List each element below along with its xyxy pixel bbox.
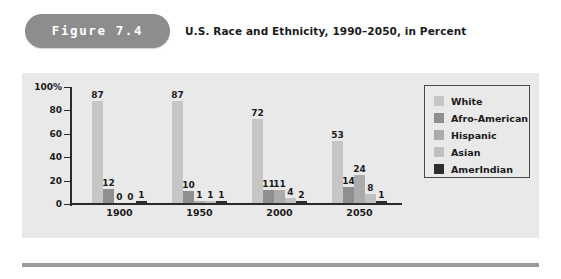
bar-rect bbox=[263, 190, 274, 203]
legend-swatch-icon bbox=[434, 130, 444, 140]
y-axis-tick-mark bbox=[64, 87, 70, 88]
bar[interactable]: 2 bbox=[296, 86, 307, 203]
x-axis-line bbox=[70, 203, 402, 205]
y-axis-line bbox=[70, 87, 72, 206]
bar[interactable]: 0 bbox=[125, 86, 136, 203]
bar-value-label: 4 bbox=[287, 187, 293, 197]
legend-item[interactable]: Asian bbox=[434, 144, 529, 160]
bar-value-label: 2 bbox=[298, 190, 304, 200]
legend-swatch-icon bbox=[434, 96, 444, 106]
legend-item-label: AmerIndian bbox=[451, 164, 513, 175]
bar-value-label: 1 bbox=[218, 190, 224, 200]
bar-value-label: 14 bbox=[342, 176, 355, 186]
bar-group: 531424812050 bbox=[332, 86, 387, 203]
bar-value-label: 1 bbox=[196, 190, 202, 200]
bar[interactable]: 11 bbox=[274, 86, 285, 203]
bar-value-label: 1 bbox=[138, 190, 144, 200]
plot-area: 020406080100% 87120011900871011119507211… bbox=[70, 87, 400, 205]
y-axis-tick-mark bbox=[64, 204, 70, 205]
bar-rect bbox=[332, 141, 343, 203]
bar[interactable]: 12 bbox=[103, 86, 114, 203]
bar-rect bbox=[376, 201, 387, 203]
bar-rect bbox=[285, 198, 296, 203]
bar-value-label: 87 bbox=[91, 90, 104, 100]
legend-item[interactable]: AmerIndian bbox=[434, 161, 529, 177]
figure-number-pill: Figure 7.4 bbox=[25, 14, 170, 48]
bar-value-label: 0 bbox=[127, 192, 133, 202]
bar[interactable]: 14 bbox=[343, 86, 354, 203]
y-axis-tick-mark bbox=[64, 134, 70, 135]
legend-swatch-icon bbox=[434, 147, 444, 157]
bar-value-label: 10 bbox=[182, 180, 195, 190]
bar[interactable]: 1 bbox=[136, 86, 147, 203]
bottom-divider bbox=[22, 263, 539, 267]
bar-group-bars: 8712001 bbox=[92, 86, 147, 203]
bar-group-bars: 8710111 bbox=[172, 86, 227, 203]
bar[interactable]: 1 bbox=[194, 86, 205, 203]
bar[interactable]: 24 bbox=[354, 86, 365, 203]
bar-value-label: 1 bbox=[207, 190, 213, 200]
bar-rect bbox=[252, 119, 263, 203]
bar-rect bbox=[194, 201, 205, 203]
y-axis-tick-label: 100% bbox=[34, 82, 62, 92]
bar-rect bbox=[216, 201, 227, 203]
legend-item-label: White bbox=[451, 96, 482, 107]
bar[interactable]: 8 bbox=[365, 86, 376, 203]
bar-rect bbox=[103, 189, 114, 203]
bar-value-label: 24 bbox=[353, 164, 366, 174]
y-axis-tick-mark bbox=[64, 181, 70, 182]
bar[interactable]: 10 bbox=[183, 86, 194, 203]
bar-value-label: 53 bbox=[331, 130, 344, 140]
bar[interactable]: 1 bbox=[376, 86, 387, 203]
figure-header: Figure 7.4 U.S. Race and Ethnicity, 1990… bbox=[25, 14, 535, 49]
bar-rect bbox=[343, 187, 354, 203]
legend-item-label: Hispanic bbox=[451, 130, 497, 141]
y-axis-tick-label: 40 bbox=[49, 152, 62, 162]
bar-value-label: 0 bbox=[116, 192, 122, 202]
legend-item[interactable]: Hispanic bbox=[434, 127, 529, 143]
bar-value-label: 8 bbox=[367, 183, 373, 193]
bar-rect bbox=[354, 175, 365, 203]
x-axis-category-label: 2000 bbox=[252, 207, 307, 218]
y-axis-tick-mark bbox=[64, 157, 70, 158]
bar-rect bbox=[365, 194, 376, 203]
y-axis-tick-label: 80 bbox=[49, 105, 62, 115]
legend-swatch-icon bbox=[434, 113, 444, 123]
x-axis-category-label: 1950 bbox=[172, 207, 227, 218]
bar-value-label: 87 bbox=[171, 90, 184, 100]
bar[interactable]: 4 bbox=[285, 86, 296, 203]
legend-item[interactable]: Afro-American bbox=[434, 110, 529, 126]
bar-group: 87120011900 bbox=[92, 86, 147, 203]
legend: WhiteAfro-AmericanHispanicAsianAmerIndia… bbox=[424, 85, 530, 178]
bar-group: 87101111950 bbox=[172, 86, 227, 203]
bar-group-bars: 72111142 bbox=[252, 86, 307, 203]
bar[interactable]: 0 bbox=[114, 86, 125, 203]
figure-title: U.S. Race and Ethnicity, 1990–2050, in P… bbox=[185, 14, 466, 48]
bar-rect bbox=[296, 201, 307, 203]
chart-panel: 020406080100% 87120011900871011119507211… bbox=[22, 73, 539, 238]
legend-item-label: Afro-American bbox=[451, 113, 528, 124]
bar[interactable]: 1 bbox=[205, 86, 216, 203]
bar-value-label: 11 bbox=[273, 179, 286, 189]
legend-swatch-icon bbox=[434, 164, 444, 174]
bar-group: 721111422000 bbox=[252, 86, 307, 203]
bar-value-label: 1 bbox=[378, 190, 384, 200]
bar-value-label: 72 bbox=[251, 108, 264, 118]
bar-rect bbox=[136, 201, 147, 203]
x-axis-category-label: 1900 bbox=[92, 207, 147, 218]
bar-rect bbox=[274, 190, 285, 203]
bar[interactable]: 1 bbox=[216, 86, 227, 203]
bar-value-label: 12 bbox=[102, 178, 115, 188]
figure-number-label: Figure 7.4 bbox=[25, 14, 170, 48]
y-axis-tick-label: 0 bbox=[56, 199, 62, 209]
bar-rect bbox=[205, 201, 216, 203]
y-axis-tick-mark bbox=[64, 110, 70, 111]
x-axis-category-label: 2050 bbox=[332, 207, 387, 218]
bar-rect bbox=[183, 191, 194, 203]
y-axis-tick-label: 60 bbox=[49, 129, 62, 139]
y-axis-tick-label: 20 bbox=[49, 176, 62, 186]
legend-item-label: Asian bbox=[451, 147, 480, 158]
bar-group-bars: 53142481 bbox=[332, 86, 387, 203]
legend-item[interactable]: White bbox=[434, 93, 529, 109]
